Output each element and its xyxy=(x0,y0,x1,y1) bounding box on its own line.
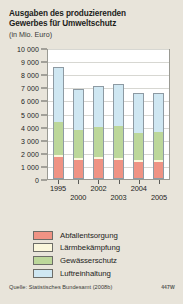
legend-swatch xyxy=(33,269,53,278)
y-axis-tick xyxy=(41,114,47,115)
y-axis-tick xyxy=(41,49,47,50)
bar-segment-luftreinhaltung xyxy=(134,94,143,133)
y-axis-tick-label: 7 000 xyxy=(21,85,39,92)
y-axis-tick xyxy=(41,140,47,141)
bar-series-group xyxy=(48,50,169,179)
bar-segment-gewässerschutz xyxy=(54,122,63,155)
x-axis-tick xyxy=(119,180,120,184)
plot-wrapper: 01 0002 0003 0004 0005 0006 0007 0008 00… xyxy=(0,46,183,196)
x-axis: 199520002002200320042005 xyxy=(47,180,170,206)
bar-segment-gewässerschutz xyxy=(134,133,143,160)
chart-subtitle: (in Mio. Euro) xyxy=(9,31,177,39)
bar-segment-luftreinhaltung xyxy=(74,90,83,130)
chart-legend: AbfallentsorgungLärmbekämpfungGewässersc… xyxy=(33,229,179,279)
y-axis-tick xyxy=(41,166,47,167)
y-axis: 01 0002 0003 0004 0005 0006 0007 0008 00… xyxy=(0,49,47,180)
bar-segment-gewässerschutz xyxy=(74,130,83,158)
y-axis-tick xyxy=(41,101,47,102)
bar-1995 xyxy=(53,67,64,179)
page-title-line2: Gewerbes für Umweltschutz xyxy=(9,19,116,28)
bar-segment-luftreinhaltung xyxy=(54,68,63,122)
bar-segment-luftreinhaltung xyxy=(114,85,123,126)
bar-segment-gewässerschutz xyxy=(154,132,163,160)
legend-swatch xyxy=(33,231,53,240)
y-axis-tick-label: 4 000 xyxy=(21,124,39,131)
page-title-line1: Ausgaben des produzierenden xyxy=(9,9,126,18)
legend-swatch xyxy=(33,243,53,252)
bar-2000 xyxy=(73,89,84,179)
y-axis-tick xyxy=(41,153,47,154)
legend-swatch xyxy=(33,256,53,265)
legend-label: Luftreinhaltung xyxy=(60,269,111,278)
bar-segment-abfallentsorgung xyxy=(114,160,123,178)
y-axis-tick-label: 3 000 xyxy=(21,137,39,144)
y-axis-tick xyxy=(41,62,47,63)
y-axis-tick-label: 5 000 xyxy=(21,111,39,118)
bar-segment-abfallentsorgung xyxy=(134,162,143,178)
legend-label: Abfallentsorgung xyxy=(60,231,118,240)
y-axis-tick-label: 6 000 xyxy=(21,98,39,105)
legend-label: Lärmbekämpfung xyxy=(60,243,120,252)
legend-label: Gewässerschutz xyxy=(60,256,117,265)
title-block: Ausgaben des produzierenden Gewerbes für… xyxy=(9,9,177,39)
x-axis-tick xyxy=(159,180,160,184)
x-axis-tick-label-1995: 1995 xyxy=(50,184,66,193)
x-axis-tick-label-2005: 2005 xyxy=(151,193,167,202)
bar-segment-abfallentsorgung xyxy=(94,159,103,178)
bar-2002 xyxy=(93,86,104,179)
bar-segment-abfallentsorgung xyxy=(54,157,63,178)
bar-segment-luftreinhaltung xyxy=(94,87,103,127)
source-note: Quelle: Statistisches Bundesamt (2008b) xyxy=(9,284,112,290)
y-axis-tick xyxy=(41,88,47,89)
y-axis-tick-label: 2 000 xyxy=(21,150,39,157)
legend-item-abfallentsorgung: Abfallentsorgung xyxy=(33,229,179,242)
y-axis-tick-label: 8 000 xyxy=(21,72,39,79)
x-axis-tick-label-2004: 2004 xyxy=(131,184,147,193)
chart-figure: Ausgaben des produzierenden Gewerbes für… xyxy=(0,0,183,304)
bar-2003 xyxy=(113,84,124,179)
x-axis-tick-label-2002: 2002 xyxy=(90,184,106,193)
y-axis-tick-label: 9 000 xyxy=(21,59,39,66)
bar-segment-abfallentsorgung xyxy=(74,160,83,178)
bar-segment-gewässerschutz xyxy=(114,126,123,158)
y-axis-tick-label: 0 xyxy=(35,177,39,184)
page-title: Ausgaben des produzierenden Gewerbes für… xyxy=(9,9,177,28)
y-axis-tick xyxy=(41,75,47,76)
x-axis-tick-label-2003: 2003 xyxy=(111,193,127,202)
legend-item-luftreinhaltung: Luftreinhaltung xyxy=(33,267,179,280)
legend-item-gewässerschutz: Gewässerschutz xyxy=(33,254,179,267)
bar-segment-luftreinhaltung xyxy=(154,94,163,131)
bar-segment-abfallentsorgung xyxy=(154,162,163,178)
bar-2005 xyxy=(153,93,164,179)
y-axis-tick-label: 1 000 xyxy=(21,163,39,170)
x-axis-tick-label-2000: 2000 xyxy=(70,193,86,202)
legend-item-lärmbekämpfung: Lärmbekämpfung xyxy=(33,242,179,255)
y-axis-tick-label: 10 000 xyxy=(17,46,39,53)
bar-segment-gewässerschutz xyxy=(94,127,103,157)
y-axis-tick xyxy=(41,127,47,128)
figure-id: 447W xyxy=(161,284,175,290)
bar-2004 xyxy=(133,93,144,179)
x-axis-tick xyxy=(78,180,79,184)
